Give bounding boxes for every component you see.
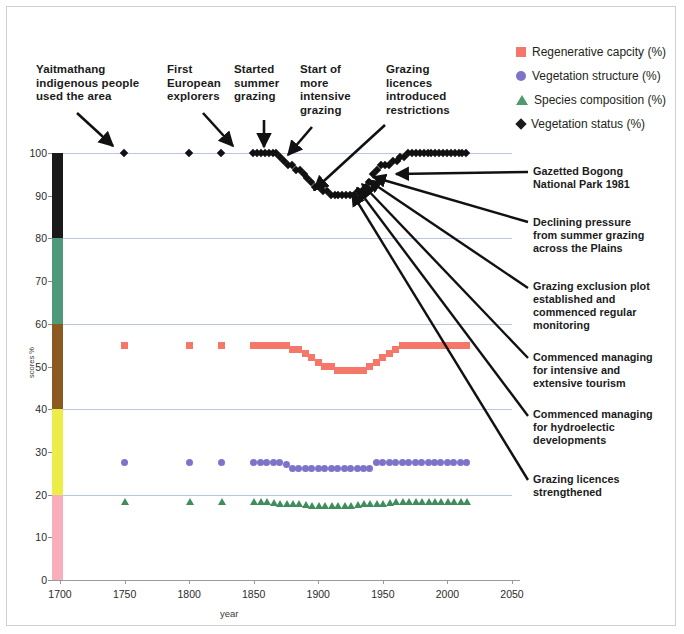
x-tick-label-2000: 2000 [436,588,459,600]
annotation-first-european: First European explorers [167,63,237,104]
x-tick-mark-1950 [383,580,384,584]
gridline-80 [60,238,512,239]
legend-item-species-composition: Species composition (%) [516,88,666,112]
y-tick-label-50: 50 [35,361,47,373]
annotation-text: Gazetted Bogong National Park 1981 [533,165,630,190]
x-axis-line [50,580,520,581]
y-tick-label-30: 30 [35,446,47,458]
annotation-text: Grazing licences introduced restrictions [386,63,450,116]
x-tick-label-1850: 1850 [242,588,265,600]
annotation-text: Declining pressure from summer grazing a… [533,216,644,254]
x-axis-title: year [220,608,238,619]
gridline-40 [60,409,512,410]
x-tick-label-1800: 1800 [177,588,200,600]
band-0-20 [52,495,63,580]
legend-circle-marker-icon [516,71,526,81]
legend-label: Species composition (%) [534,93,666,107]
band-80-100 [52,153,63,238]
gridline-60 [60,324,512,325]
data-point [186,498,194,505]
y-tick-mark-60 [48,324,52,325]
legend-item-regenerative-capacity: Regenerative capcity (%) [516,40,666,64]
y-tick-label-0: 0 [41,574,47,586]
y-tick-mark-100 [48,153,52,154]
legend-label: Vegetation status (%) [531,117,645,131]
y-tick-mark-80 [48,238,52,239]
legend-triangle-marker-icon [516,95,528,105]
data-point [218,459,225,466]
y-tick-label-80: 80 [35,232,47,244]
data-point [121,459,128,466]
y-tick-label-10: 10 [35,531,47,543]
arrow-yaitmathang [77,113,113,146]
y-tick-mark-70 [48,281,52,282]
annotation-grazing-exclusion-plot: Grazing exclusion plot established and c… [533,280,684,332]
data-point [120,148,128,156]
annotation-gazetted-bogong: Gazetted Bogong National Park 1981 [533,165,683,191]
legend-label: Regenerative capcity (%) [532,45,666,59]
data-point [184,148,192,156]
data-point [347,465,354,472]
data-point [463,498,471,505]
annotation-yaitmathang: Yaitmathang indigenous people used the a… [36,63,166,104]
x-tick-mark-1800 [189,580,190,584]
annotation-grazing-licences-strengthened: Grazing licences strengthened [533,473,684,499]
x-tick-mark-1900 [318,580,319,584]
arrow-more-intensive-grazing [288,127,312,155]
data-point [462,148,470,156]
band-60-80 [52,238,63,323]
x-tick-mark-2050 [512,580,513,584]
annotation-text: Started summer grazing [234,63,279,102]
chart-figure: Yaitmathang indigenous people used the a… [0,0,684,634]
data-point [276,459,283,466]
annotation-started-summer-grazing: Started summer grazing [234,63,290,104]
data-point [463,459,470,466]
annotation-text: First European explorers [167,63,221,102]
chart-legend: Regenerative capcity (%) Vegetation stru… [516,40,666,136]
x-tick-label-2050: 2050 [500,588,523,600]
x-tick-label-1750: 1750 [113,588,136,600]
legend-item-vegetation-structure: Vegetation structure (%) [516,64,666,88]
annotation-text: Yaitmathang indigenous people used the a… [36,63,139,102]
y-tick-label-100: 100 [29,147,47,159]
annotation-text: Grazing exclusion plot established and c… [533,280,650,331]
annotation-more-intensive-grazing: Start of more intensive grazing [300,63,360,117]
data-point [463,342,470,349]
y-tick-mark-30 [48,452,52,453]
annotation-text: Commenced managing for hydroelectic deve… [533,408,653,446]
y-tick-mark-90 [48,196,52,197]
x-tick-label-1900: 1900 [307,588,330,600]
band-20-40 [52,409,63,494]
y-tick-label-20: 20 [35,489,47,501]
annotation-grazing-licences-restrictions: Grazing licences introduced restrictions [386,63,486,117]
y-tick-mark-40 [48,409,52,410]
data-point [186,459,193,466]
gridline-20 [60,495,512,496]
data-point [121,498,129,505]
y-tick-label-70: 70 [35,275,47,287]
x-tick-mark-1700 [60,580,61,584]
x-tick-label-1950: 1950 [371,588,394,600]
data-point [186,342,193,349]
annotation-hydroelectric: Commenced managing for hydroelectic deve… [533,408,684,447]
x-tick-mark-1750 [125,580,126,584]
y-tick-label-40: 40 [35,403,47,415]
x-tick-mark-1850 [254,580,255,584]
y-tick-mark-50 [48,367,52,368]
y-axis-title: scores % [27,347,36,378]
annotation-text: Grazing licences strengthened [533,473,620,498]
data-point [218,342,225,349]
data-point [217,148,225,156]
legend-diamond-marker-icon [515,118,526,129]
arrow-first-european [203,113,233,146]
annotation-declining-pressure: Declining pressure from summer grazing a… [533,216,683,255]
legend-label: Vegetation structure (%) [532,69,661,83]
plot-area: 0102030405060708090100 17001750180018501… [60,153,512,580]
band-40-60 [52,324,63,409]
x-tick-label-1700: 1700 [48,588,71,600]
annotation-intensive-tourism: Commenced managing for intensive and ext… [533,351,684,390]
y-tick-mark-10 [48,537,52,538]
data-point [366,465,373,472]
data-point [218,498,226,505]
legend-item-vegetation-status: Vegetation status (%) [516,112,666,136]
